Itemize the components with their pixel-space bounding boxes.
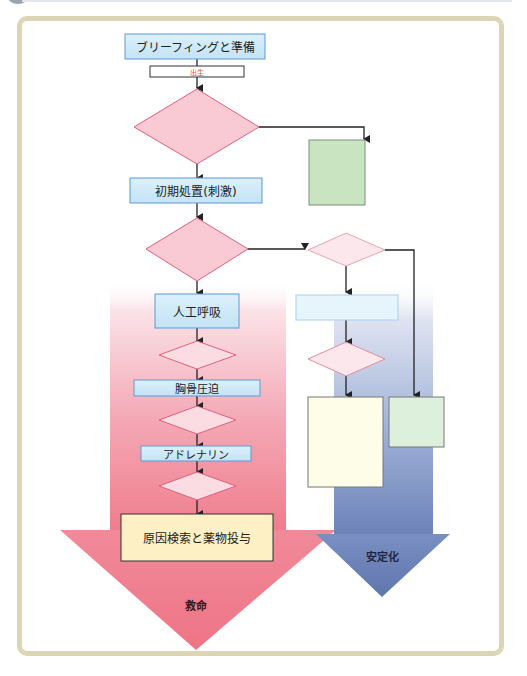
stabilization-label: 安定化 — [352, 547, 412, 565]
light-blue-box — [296, 295, 398, 320]
initial-steps-label: 初期処置(刺激) — [130, 178, 262, 203]
decision-diamond-2 — [146, 218, 248, 281]
nrp-flowchart — [0, 0, 527, 676]
resuscitation-label: 救命 — [166, 596, 226, 614]
decision-diamond-1 — [134, 89, 259, 164]
briefing-label: ブリーフィングと準備 — [125, 34, 265, 59]
cause-and-drugs-label: 原因検索と薬物投与 — [121, 514, 273, 561]
pale-yellow-box — [308, 397, 383, 487]
green-box-1 — [309, 140, 365, 205]
birth-label: 出生 — [150, 66, 244, 77]
chest-compressions-label: 胸骨圧迫 — [134, 380, 260, 396]
resuscitation-arrow — [60, 280, 336, 650]
ventilation-label: 人工呼吸 — [155, 294, 239, 328]
decision-diamond-6 — [308, 233, 385, 266]
adrenaline-label: アドレナリン — [141, 446, 251, 461]
green-box-2 — [389, 397, 444, 447]
